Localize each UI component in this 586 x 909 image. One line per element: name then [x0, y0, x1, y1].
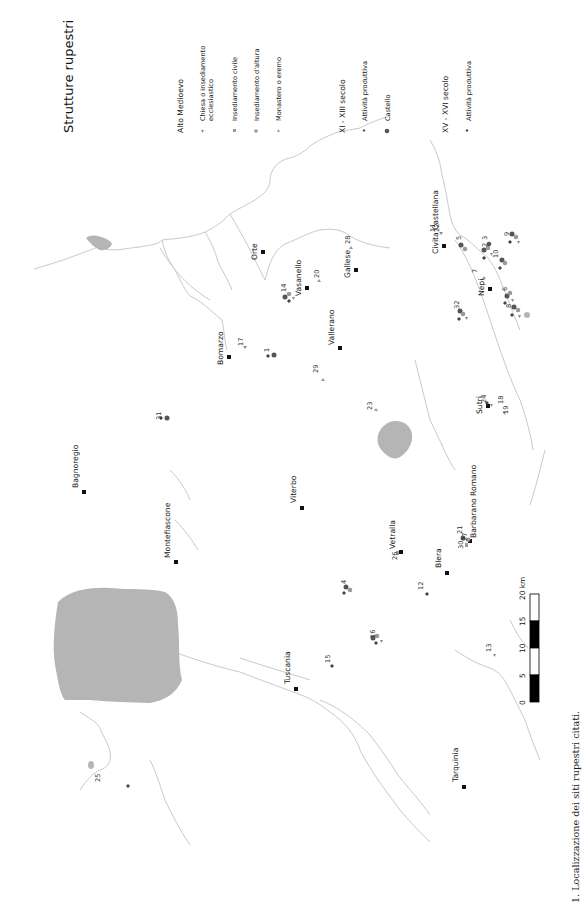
svg-text:Nepi: Nepi	[477, 279, 486, 296]
svg-text:Montefiascone: Montefiascone	[163, 502, 172, 558]
site-label: 24	[480, 395, 488, 403]
map-canvas: Orte Vasanello Gallese Civita Castellana…	[0, 0, 586, 909]
town-blera: Blera	[434, 548, 449, 575]
legend-label: Attività produttiva	[361, 61, 369, 121]
site-label: 27	[461, 533, 469, 541]
site-label: 28	[344, 236, 352, 244]
town-nepi: Nepi	[477, 279, 492, 296]
site-label: 6	[501, 287, 509, 291]
svg-text:Gallese: Gallese	[343, 250, 352, 278]
legend-label: Attività produttiva	[465, 61, 473, 121]
svg-text:Blera: Blera	[434, 548, 443, 568]
legend-label: Monastero o eremo	[275, 57, 283, 121]
svg-text:Bomarzo: Bomarzo	[216, 331, 225, 365]
town-civita-castellana: Civita Castellana	[431, 190, 446, 254]
site-label: 31	[155, 412, 163, 420]
site-label: 13	[485, 644, 493, 652]
scale-tick-5: 5	[518, 673, 527, 678]
legend-heading-xv-xvi: XV - XVI secolo	[441, 75, 450, 133]
town-montefiascone: Montefiascone	[163, 502, 178, 564]
site-label: 9	[503, 232, 511, 236]
site-label: 25	[94, 774, 102, 782]
site-label: 19	[502, 406, 510, 414]
site-label: 1	[263, 348, 271, 352]
lake-bolsena	[54, 588, 182, 703]
svg-text:Viterbo: Viterbo	[289, 475, 298, 503]
legend: Alto Medioevo Chiesa o insediamento eccl…	[176, 46, 473, 134]
legend-heading-xi-xiii: XI - XIII secolo	[338, 79, 347, 133]
svg-text:Bagnoregio: Bagnoregio	[71, 444, 80, 488]
scale-tick-15: 15	[518, 616, 527, 626]
town-gallese: Gallese	[343, 250, 358, 278]
town-orte: Orte	[250, 243, 265, 260]
svg-text:Vallerano: Vallerano	[327, 309, 336, 345]
lake-vico	[378, 421, 413, 458]
site-label: 10	[492, 250, 500, 258]
site-label: 29	[312, 365, 320, 373]
legend-diamond-icon	[363, 129, 366, 132]
legend-diamond-icon	[466, 129, 469, 132]
town-bomarzo: Bomarzo	[216, 331, 231, 365]
site-label: 30	[457, 541, 465, 549]
scale-tick-0: 0	[518, 700, 527, 705]
town-viterbo: Viterbo	[289, 475, 304, 510]
site-label: 8	[505, 304, 513, 308]
site-label: 7	[471, 269, 479, 273]
town-vetralla: Vetralla	[388, 520, 403, 554]
svg-text:Civita Castellana: Civita Castellana	[431, 190, 440, 254]
site-label: 18	[497, 396, 505, 404]
site-label: 17	[237, 338, 245, 346]
lake-small-west	[88, 761, 94, 769]
legend-label: Castello	[384, 95, 392, 121]
site-label: 26	[391, 552, 399, 560]
svg-text:Tuscania: Tuscania	[283, 651, 292, 685]
map-title: Strutture rupestri	[61, 20, 76, 133]
svg-text:Tarquinia: Tarquinia	[451, 748, 460, 783]
town-vallerano: Vallerano	[327, 309, 342, 350]
site-label: 15	[324, 655, 332, 663]
legend-label: ecclesiastico	[207, 79, 215, 121]
legend-triangle-down-icon	[201, 130, 204, 133]
scale-bar: 0 5 10 15 20 km	[518, 577, 539, 705]
legend-label: Insediamento d'altura	[253, 49, 261, 121]
lake-small-north	[86, 236, 112, 251]
town-vasanello: Vasanello	[294, 259, 309, 296]
site-label: 14	[280, 284, 288, 292]
scale-tick-10: 10	[518, 643, 527, 653]
town-bagnoregio: Bagnoregio	[71, 444, 86, 494]
town-tarquinia: Tarquinia	[451, 748, 466, 789]
legend-label: Chiesa o insediamento	[199, 46, 207, 121]
legend-label: Insediamento civile	[231, 57, 239, 121]
svg-text:Orte: Orte	[250, 243, 259, 260]
legend-square-icon	[233, 129, 236, 132]
site-label: 2	[481, 243, 489, 247]
scale-tick-20km: 20 km	[518, 577, 527, 600]
site-label: 23	[366, 402, 374, 410]
site-symbols	[126, 232, 521, 789]
legend-triangle-up-icon	[277, 129, 280, 132]
site-label: 20	[313, 270, 321, 278]
legend-heading-alto-medioevo: Alto Medioevo	[176, 79, 185, 133]
svg-text:Vetralla: Vetralla	[388, 520, 397, 549]
site-label: 32	[453, 301, 461, 309]
figure-caption: 1. Localizzazione dei siti rupestri cita…	[570, 711, 581, 903]
site-label: 16	[369, 630, 377, 638]
site-label: 22	[433, 224, 441, 232]
legend-circle-icon	[254, 129, 258, 133]
svg-text:Barbarano Romano: Barbarano Romano	[469, 464, 478, 538]
site-label: 12	[417, 582, 425, 590]
svg-text:Vasanello: Vasanello	[294, 259, 303, 296]
legend-circle-icon	[385, 129, 390, 134]
town-tuscania: Tuscania	[283, 651, 298, 691]
town-barbarano-romano: Barbarano Romano	[468, 464, 478, 543]
site-label: 5	[455, 236, 463, 240]
site-label: 4	[340, 580, 348, 584]
site-label: 3	[481, 236, 489, 240]
pond-east	[524, 312, 530, 318]
